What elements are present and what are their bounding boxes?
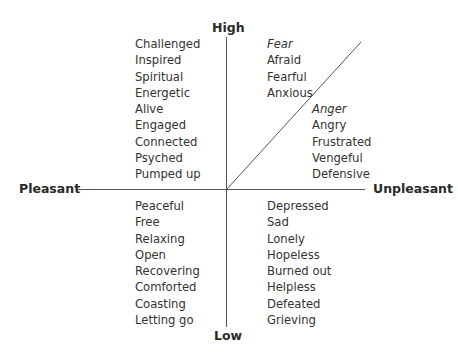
emotion-word: Depressed [267, 198, 331, 214]
emotion-word: Anxious [267, 85, 313, 101]
emotion-word: Letting go [135, 312, 200, 328]
emotion-word: Afraid [267, 52, 313, 68]
axis-label-pleasant: Pleasant [19, 181, 80, 197]
emotion-word: Lonely [267, 231, 331, 247]
emotion-word: Helpless [267, 279, 331, 295]
emotion-word: Open [135, 247, 200, 263]
quadrant-anger: Anger Angry Frustrated Vengeful Defensiv… [312, 101, 371, 182]
emotion-word: Alive [135, 101, 201, 117]
emotion-word: Spiritual [135, 69, 201, 85]
emotion-word: Defeated [267, 296, 331, 312]
quadrant-low-pleasant: Peaceful Free Relaxing Open Recovering C… [135, 198, 200, 328]
emotion-word: Angry [312, 117, 371, 133]
emotion-word: Inspired [135, 52, 201, 68]
emotion-word: Engaged [135, 117, 201, 133]
emotion-word: Comforted [135, 279, 200, 295]
emotion-word: Vengeful [312, 150, 371, 166]
emotion-word: Free [135, 214, 200, 230]
axis-label-unpleasant: Unpleasant [373, 181, 453, 197]
axis-label-low: Low [214, 328, 242, 344]
fear-heading: Fear [267, 36, 313, 52]
emotion-word: Connected [135, 134, 201, 150]
anger-heading: Anger [312, 101, 371, 117]
axes-lines [0, 0, 458, 354]
emotion-word: Challenged [135, 36, 201, 52]
emotion-word: Frustrated [312, 134, 371, 150]
quadrant-fear: Fear Afraid Fearful Anxious [267, 36, 313, 101]
emotion-word: Recovering [135, 263, 200, 279]
emotion-word: Relaxing [135, 231, 200, 247]
emotion-word: Defensive [312, 166, 371, 182]
emotion-word: Fearful [267, 69, 313, 85]
emotion-word: Pumped up [135, 166, 201, 182]
axis-label-high: High [212, 20, 245, 36]
emotion-word: Psyched [135, 150, 201, 166]
emotion-word: Burned out [267, 263, 331, 279]
emotion-word: Energetic [135, 85, 201, 101]
emotion-word: Sad [267, 214, 331, 230]
emotion-quadrant-diagram: High Low Pleasant Unpleasant Challenged … [0, 0, 458, 354]
emotion-word: Peaceful [135, 198, 200, 214]
emotion-word: Coasting [135, 296, 200, 312]
emotion-word: Hopeless [267, 247, 331, 263]
emotion-word: Grieving [267, 312, 331, 328]
quadrant-high-pleasant: Challenged Inspired Spiritual Energetic … [135, 36, 201, 183]
quadrant-low-unpleasant: Depressed Sad Lonely Hopeless Burned out… [267, 198, 331, 328]
